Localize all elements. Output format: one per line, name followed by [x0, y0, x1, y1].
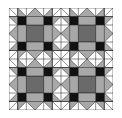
black-square	[44, 17, 53, 26]
black-square	[96, 68, 105, 77]
center-square	[78, 76, 95, 93]
black-square	[96, 93, 105, 102]
black-square	[44, 68, 53, 77]
black-square	[70, 93, 79, 102]
black-square	[18, 17, 27, 26]
black-square	[18, 42, 27, 51]
center-square	[26, 76, 43, 93]
black-square	[70, 68, 79, 77]
black-square	[44, 93, 53, 102]
center-square	[78, 25, 95, 42]
quilt-pattern	[9, 8, 113, 110]
black-square	[44, 42, 53, 51]
black-square	[70, 17, 79, 26]
center-square	[26, 25, 43, 42]
star-block	[61, 59, 113, 110]
black-square	[18, 93, 27, 102]
black-square	[96, 42, 105, 51]
star-block	[9, 8, 61, 59]
black-square	[70, 42, 79, 51]
black-square	[96, 17, 105, 26]
black-square	[18, 68, 27, 77]
star-block	[61, 8, 113, 59]
star-block	[9, 59, 61, 110]
